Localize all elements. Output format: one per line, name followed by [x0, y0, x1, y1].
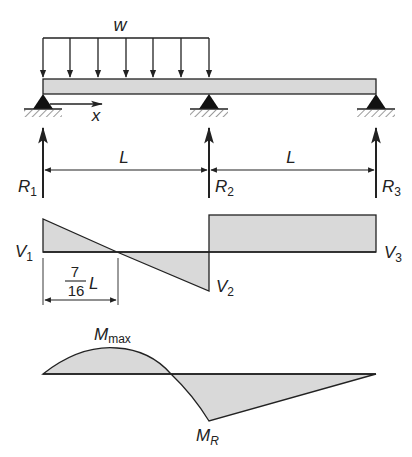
reaction-r3-label: R3 [382, 177, 401, 199]
support-middle [190, 94, 228, 117]
shear-v1-label: V1 [15, 242, 33, 264]
load-label-w: w [114, 15, 128, 35]
svg-text:L: L [286, 148, 295, 167]
x-axis-label: x [91, 106, 101, 125]
beam [43, 79, 376, 94]
fraction-numerator: 7 [71, 263, 79, 280]
svg-text:L: L [119, 148, 128, 167]
span-dimension-2: L [211, 148, 374, 170]
moment-diagram [43, 348, 376, 421]
fraction-denominator: 16 [68, 282, 85, 299]
zero-shear-dimension: 7 16 L [43, 258, 118, 305]
fraction-var: L [89, 274, 98, 293]
moment-mmax-label: Mmax [94, 325, 131, 346]
load-arrows [43, 38, 209, 77]
support-left [24, 94, 62, 117]
reaction-arrows [43, 128, 376, 198]
beam-diagram-figure: w x R1 R2 R3 L L [0, 0, 412, 457]
reaction-r2-label: R2 [215, 177, 234, 199]
span-dimension-1: L [45, 148, 207, 170]
shear-v2-label: V2 [216, 277, 234, 299]
shear-v3-label: V3 [384, 243, 402, 265]
reaction-r1-label: R1 [18, 177, 37, 199]
moment-mr-label: MR [196, 426, 219, 448]
support-right [357, 94, 395, 117]
distributed-load: w [43, 15, 209, 77]
